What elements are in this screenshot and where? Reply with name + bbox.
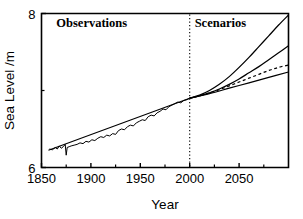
series-observed-trend-line	[48, 98, 189, 150]
x-tick-label-1950: 1950	[126, 171, 155, 186]
y-tick-label-8: 8	[28, 7, 35, 22]
series-scenario-low	[190, 72, 289, 98]
x-axis-title: Year	[151, 197, 179, 212]
y-tick-label-6: 6	[28, 161, 35, 176]
series-observed-sea-level-annual-noisy	[49, 98, 189, 155]
series-scenario-mid	[190, 46, 289, 98]
chart-figure: 1850190019502000205068YearSea Level /mOb…	[0, 0, 303, 219]
region-label-scenarios: Scenarios	[195, 16, 247, 30]
sea-level-chart: 1850190019502000205068YearSea Level /mOb…	[0, 0, 303, 219]
x-tick-label-1900: 1900	[76, 171, 105, 186]
x-tick-label-2000: 2000	[175, 171, 204, 186]
region-label-observations: Observations	[56, 16, 127, 30]
plot-frame	[42, 14, 289, 168]
x-tick-label-2050: 2050	[225, 171, 254, 186]
y-axis-title: Sea Level /m	[2, 51, 17, 130]
